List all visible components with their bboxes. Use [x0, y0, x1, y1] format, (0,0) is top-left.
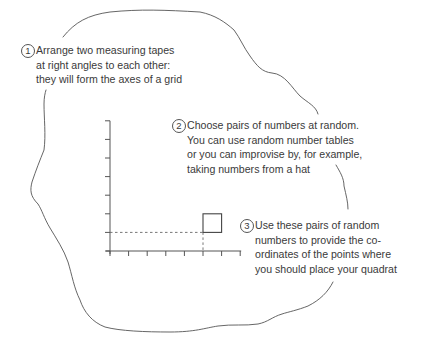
step-1-line-3: they will form the axes of a grid	[36, 72, 182, 87]
step-3-line-1: Use these pairs of random	[255, 218, 397, 233]
step-2-line-2: You can use random number tables	[187, 133, 362, 148]
step-1-number-badge: 1	[21, 44, 35, 58]
step-2-line-3: or you can improvise by, for example,	[187, 147, 362, 162]
step-3-line-3: ordinates of the points where	[255, 247, 397, 262]
step-3-line-4: you should place your quadrat	[255, 262, 397, 277]
step-3-line-2: numbers to provide the co-	[255, 233, 397, 248]
step-2-line-4: taking numbers from a hat	[187, 162, 362, 177]
step-1-line-1: Arrange two measuring tapes	[36, 43, 182, 58]
step-2-number-badge: 2	[172, 119, 186, 133]
step-1-line-2: at right angles to each other:	[36, 58, 182, 73]
step-2-line-1: Choose pairs of numbers at random.	[187, 118, 362, 133]
quadrat-placement	[110, 214, 222, 251]
quadrat-square	[203, 214, 222, 233]
step-3-number-badge: 3	[240, 219, 254, 233]
